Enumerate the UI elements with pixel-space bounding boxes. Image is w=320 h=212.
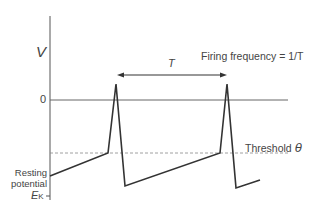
theta-symbol: θ	[295, 140, 302, 155]
ek-sub: K	[38, 192, 43, 201]
firing-diagram	[0, 0, 320, 212]
ek-label: EK	[31, 190, 44, 201]
threshold-text: Threshold	[245, 142, 292, 154]
resting-line2: potential	[6, 178, 47, 189]
zero-label: 0	[40, 94, 46, 105]
frequency-label: Firing frequency = 1/T	[201, 51, 303, 62]
resting-line1: Resting	[6, 167, 47, 178]
arrow-head-left	[117, 73, 124, 78]
y-axis-label: V	[36, 44, 46, 59]
resting-label: Resting potential	[6, 167, 47, 189]
period-label: T	[168, 58, 175, 69]
arrow-head-right	[220, 73, 227, 78]
threshold-label: Threshold θ	[245, 141, 302, 154]
